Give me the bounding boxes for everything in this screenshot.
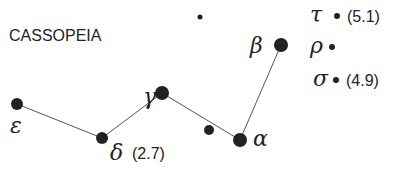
star-gamma bbox=[155, 86, 169, 100]
star-sigma bbox=[333, 77, 339, 83]
star-tau bbox=[334, 13, 340, 19]
line-gamma-alpha bbox=[162, 93, 240, 140]
star-rho bbox=[329, 44, 335, 50]
star-label-epsilon: ε bbox=[10, 113, 22, 138]
star-magnitude-tau: (5.1) bbox=[347, 8, 380, 25]
star-label-sigma: σ bbox=[313, 66, 329, 91]
star-label-beta: β bbox=[249, 33, 263, 58]
star-unnamed-top bbox=[198, 15, 203, 20]
star-label-delta: δ bbox=[110, 140, 123, 165]
star-epsilon bbox=[11, 98, 23, 110]
star-label-tau: τ bbox=[310, 2, 323, 27]
diagram-title: CASSOPEIA bbox=[9, 27, 102, 44]
star-unnamed-1 bbox=[204, 125, 214, 135]
star-label-gamma: γ bbox=[143, 84, 157, 109]
star-label-rho: ρ bbox=[309, 33, 323, 58]
star-magnitude-delta: (2.7) bbox=[132, 145, 165, 162]
line-epsilon-delta bbox=[17, 104, 102, 138]
star-magnitude-sigma: (4.9) bbox=[346, 72, 379, 89]
star-alpha bbox=[233, 133, 247, 147]
star-label-alpha: α bbox=[253, 126, 268, 151]
constellation-diagram: CASSOPEIA εδ(2.7)γαβτ(5.1)ρσ(4.9) bbox=[0, 0, 408, 172]
star-delta bbox=[96, 132, 108, 144]
star-beta bbox=[274, 38, 288, 52]
